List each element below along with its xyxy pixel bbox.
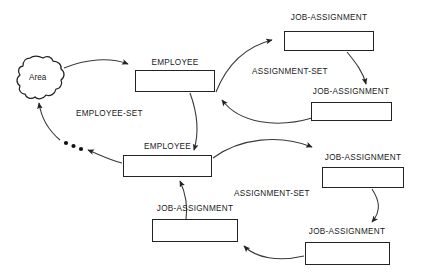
job-assignment-5-box[interactable]: [305, 242, 390, 265]
connector-area-to-employee-1: [64, 60, 128, 68]
connector-employee-1-to-job-assignment-1: [216, 40, 272, 92]
connector-job-assignment-2-to-employee-1: [222, 100, 312, 123]
connector-dots-to-area: [39, 103, 60, 140]
employee-1-box[interactable]: [135, 70, 215, 92]
job-assignment-2-label: JOB-ASSIGNMENT: [306, 87, 396, 97]
employee-2-label: EMPLOYEE: [123, 142, 212, 152]
employee-2-box[interactable]: [123, 155, 212, 177]
job-assignment-3-label: JOB-ASSIGNMENT: [318, 153, 408, 163]
employee-set-dot-2: [71, 144, 75, 148]
job-assignment-1-box[interactable]: [284, 31, 374, 51]
assignment-set-bottom-label: ASSIGNMENT-SET: [234, 189, 310, 199]
employee-set-dot-3: [79, 147, 83, 151]
job-assignment-4-label: JOB-ASSIGNMENT: [150, 204, 240, 214]
connector-job-assignment-1-to-job-assignment-2: [347, 52, 366, 84]
connector-job-assignment-3-to-job-assignment-5: [372, 189, 378, 222]
employee-set-dot-1: [64, 141, 68, 145]
assignment-set-top-label: ASSIGNMENT-SET: [252, 67, 328, 77]
connector-employee-2-to-job-assignment-3: [213, 139, 312, 158]
connector-job-assignment-5-to-job-assignment-4: [244, 246, 304, 259]
connector-employee-2-to-dots: [88, 150, 122, 163]
employee-set-label: EMPLOYEE-SET: [76, 109, 143, 119]
job-assignment-4-box[interactable]: [152, 219, 238, 242]
job-assignment-5-label: JOB-ASSIGNMENT: [302, 227, 392, 237]
job-assignment-3-box[interactable]: [322, 167, 404, 188]
job-assignment-2-box[interactable]: [311, 102, 392, 121]
diagram-canvas: Area EMPLOYEE JOB-ASSIGNMENT JOB-ASSIGNM…: [0, 0, 426, 277]
area-node-label: Area: [29, 73, 46, 82]
employee-1-label: EMPLOYEE: [135, 58, 215, 68]
job-assignment-1-label: JOB-ASSIGNMENT: [284, 13, 374, 23]
